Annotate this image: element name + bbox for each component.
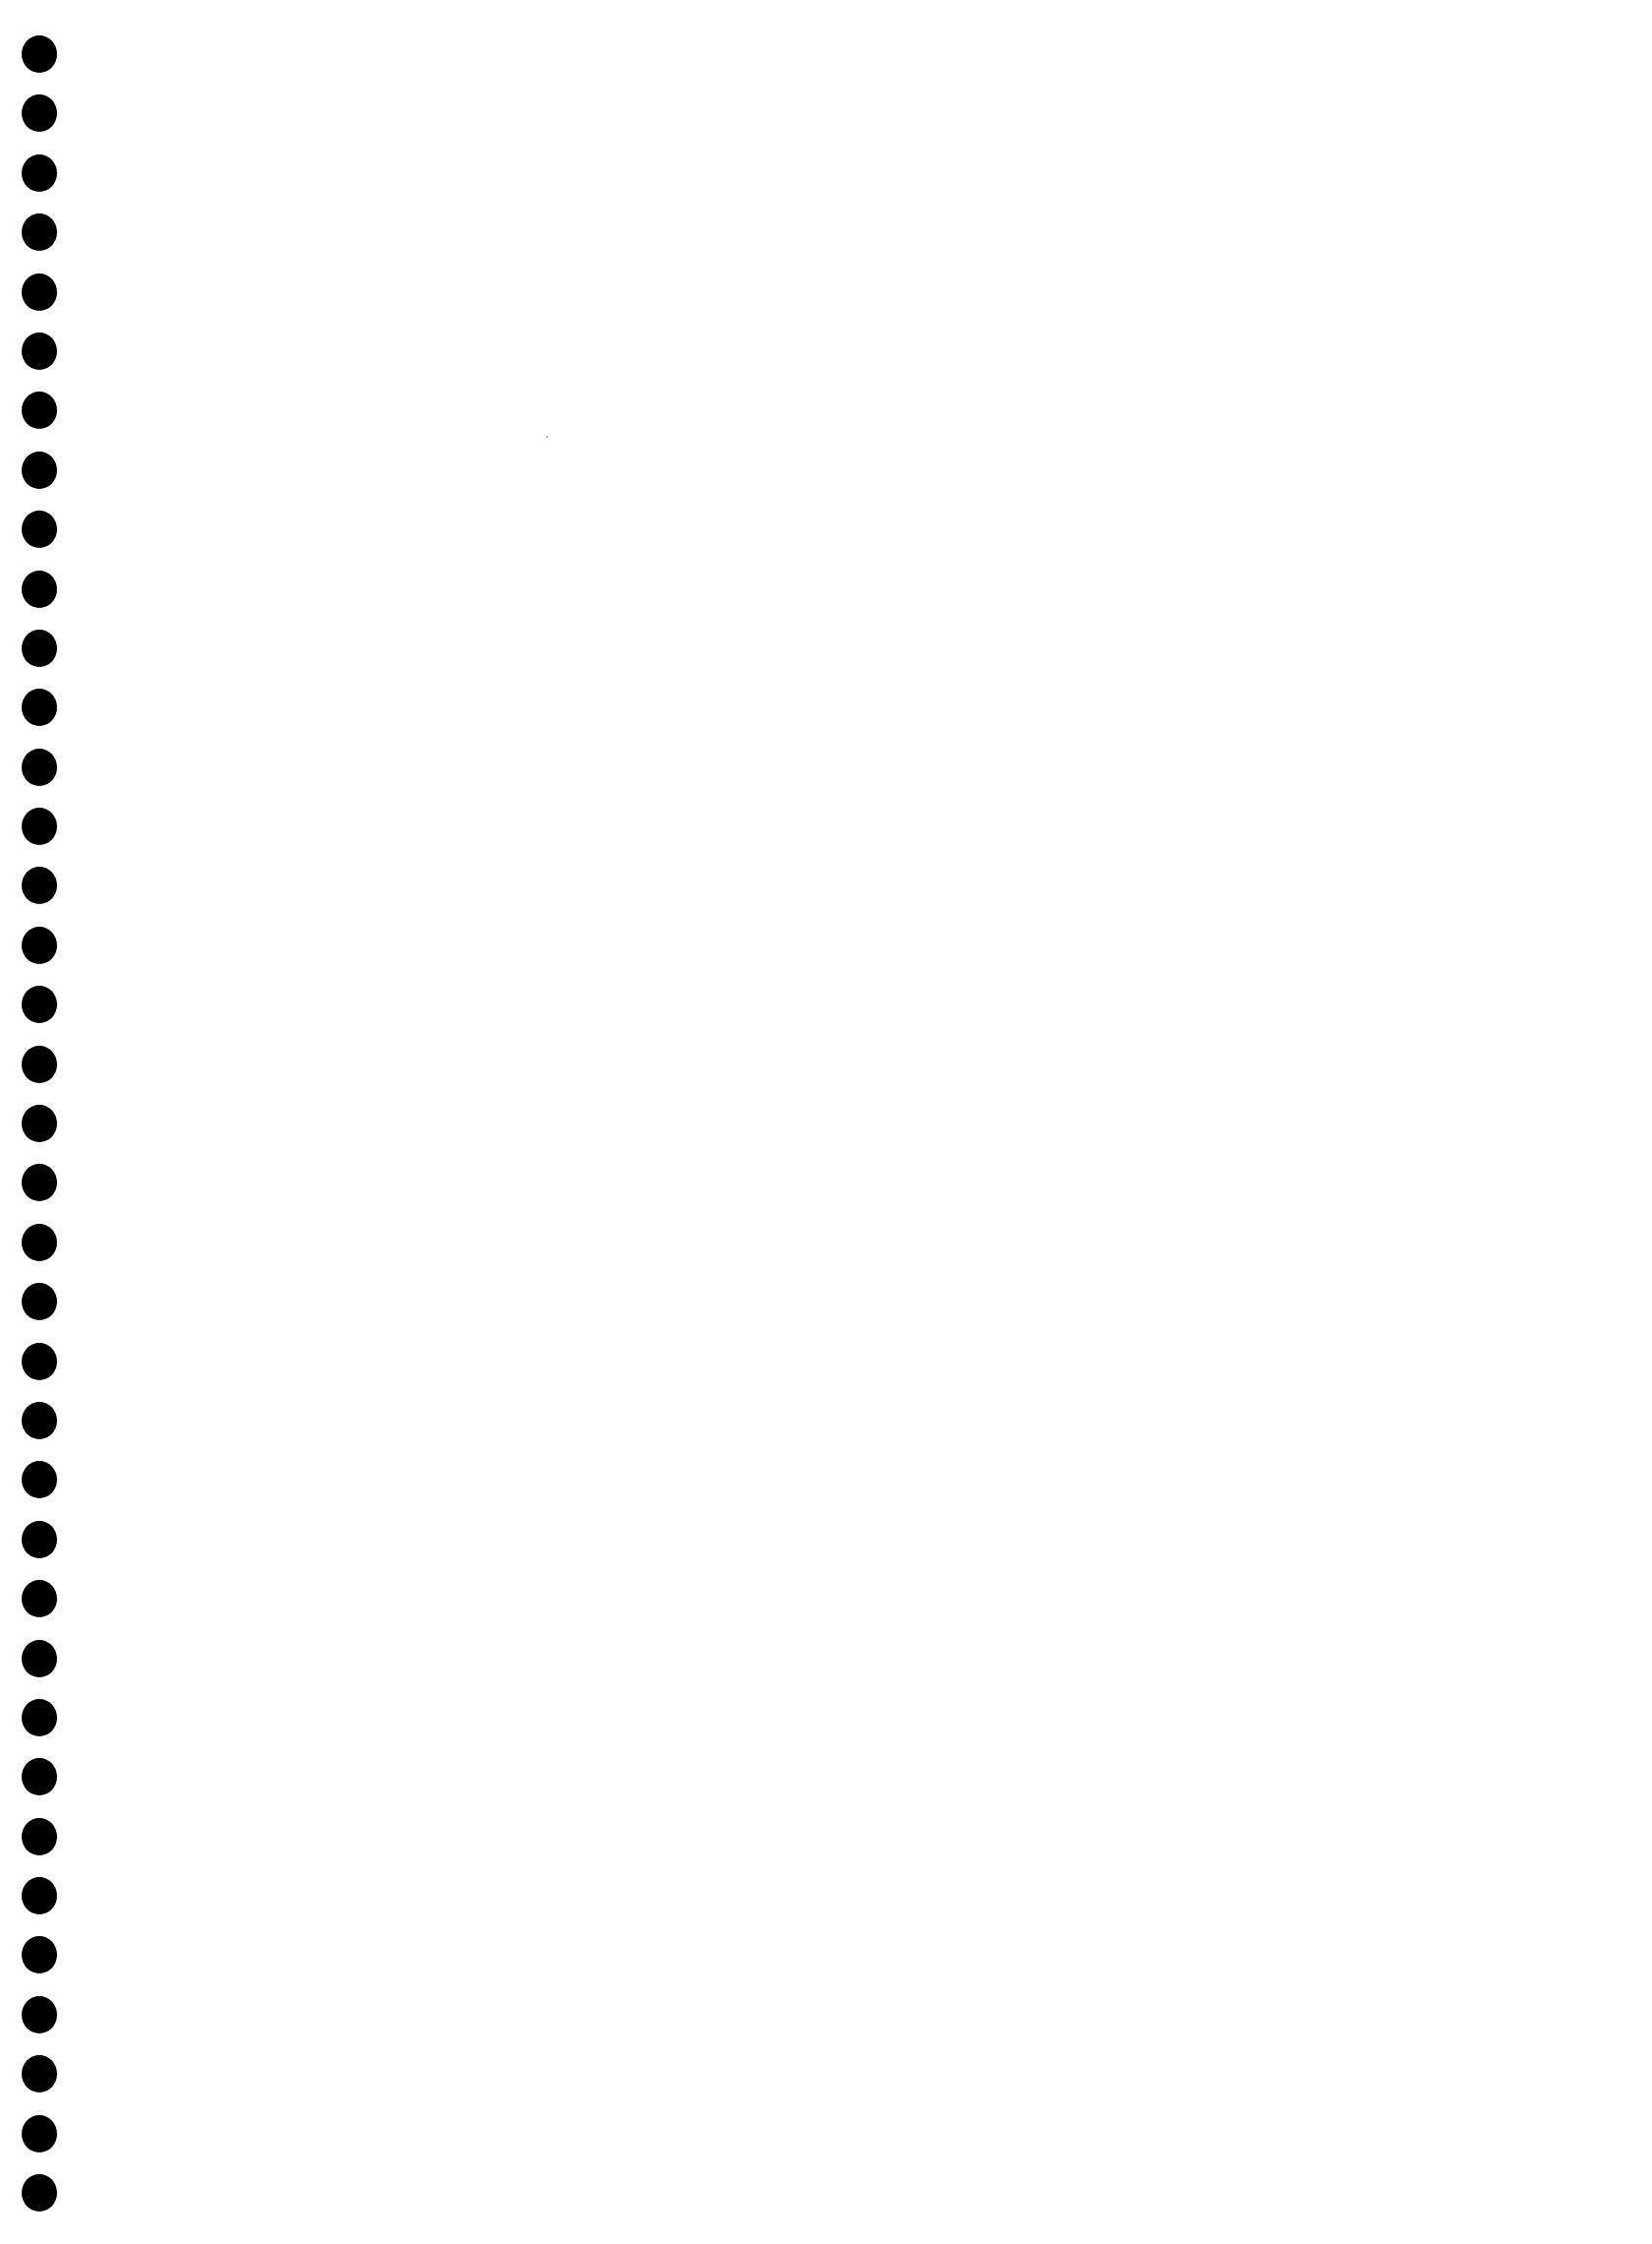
binding-hole bbox=[22, 1640, 57, 1677]
binding-hole bbox=[22, 927, 57, 964]
binding-hole bbox=[22, 273, 57, 311]
binding-hole bbox=[22, 2055, 57, 2092]
binding-hole bbox=[22, 1224, 57, 1261]
binding-hole bbox=[22, 986, 57, 1023]
binding-hole bbox=[22, 1877, 57, 1914]
binding-hole bbox=[22, 1402, 57, 1439]
binding-hole bbox=[22, 392, 57, 429]
scan-speck bbox=[546, 436, 548, 438]
binding-hole bbox=[22, 630, 57, 667]
binding-hole bbox=[22, 1699, 57, 1736]
binding-hole bbox=[22, 1046, 57, 1083]
binding-hole bbox=[22, 213, 57, 251]
binding-hole bbox=[22, 154, 57, 192]
binding-hole bbox=[22, 1343, 57, 1380]
binding-hole bbox=[22, 511, 57, 548]
binding-hole bbox=[22, 1818, 57, 1855]
binding-hole bbox=[22, 35, 57, 73]
binding-hole bbox=[22, 571, 57, 608]
binding-hole bbox=[22, 749, 57, 786]
binding-hole bbox=[22, 452, 57, 489]
binding-hole bbox=[22, 2115, 57, 2153]
binding-hole bbox=[22, 1996, 57, 2033]
binding-hole bbox=[22, 1283, 57, 1320]
binding-hole bbox=[22, 808, 57, 845]
binding-hole-column bbox=[22, 0, 61, 2244]
binding-hole bbox=[22, 689, 57, 726]
binding-hole bbox=[22, 333, 57, 370]
binding-hole bbox=[22, 867, 57, 904]
binding-hole bbox=[22, 1936, 57, 1973]
binding-hole bbox=[22, 1164, 57, 1201]
binding-hole bbox=[22, 1758, 57, 1795]
binding-hole bbox=[22, 2174, 57, 2212]
binding-hole bbox=[22, 94, 57, 132]
binding-hole bbox=[22, 1521, 57, 1558]
binding-hole bbox=[22, 1105, 57, 1142]
binding-hole bbox=[22, 1580, 57, 1617]
blank-page bbox=[0, 0, 1652, 2244]
binding-hole bbox=[22, 1461, 57, 1498]
